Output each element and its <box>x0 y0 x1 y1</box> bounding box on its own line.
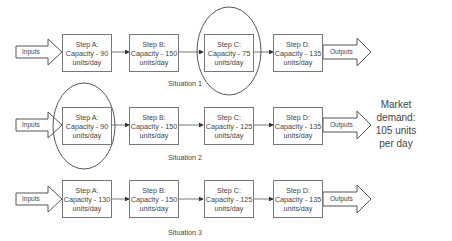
outputs-label: Outputs <box>330 121 353 128</box>
step-capacity: Capacity - 90 <box>63 49 111 58</box>
step-name: Step A: <box>63 186 111 195</box>
step-capacity: Capacity - 135 <box>274 122 322 131</box>
step-name: Step B: <box>130 113 178 122</box>
step-b-box: Step B: Capacity - 150 units/day <box>129 107 179 145</box>
step-b-box: Step B: Capacity - 150 units/day <box>129 180 179 218</box>
step-name: Step B: <box>130 40 178 49</box>
step-unit: units/day <box>63 131 111 140</box>
step-name: Step C: <box>205 113 253 122</box>
step-capacity: Capacity - 135 <box>274 49 322 58</box>
step-name: Step D: <box>274 186 322 195</box>
step-capacity: Capacity - 125 <box>205 195 253 204</box>
step-unit: units/day <box>205 131 253 140</box>
step-capacity: Capacity - 130 <box>63 195 111 204</box>
step-unit: units/day <box>205 204 253 213</box>
step-name: Step D: <box>274 113 322 122</box>
step-unit: units/day <box>130 204 178 213</box>
step-capacity: Capacity - 75 <box>205 49 253 58</box>
step-unit: units/day <box>274 204 322 213</box>
step-unit: units/day <box>205 58 253 67</box>
step-name: Step C: <box>205 40 253 49</box>
step-d-box: Step D: Capacity - 135 units/day <box>273 107 323 145</box>
step-capacity: Capacity - 150 <box>130 195 178 204</box>
step-name: Step A: <box>63 113 111 122</box>
inputs-label: Inputs <box>22 195 40 202</box>
step-unit: units/day <box>274 131 322 140</box>
step-d-box: Step D: Capacity - 135 units/day <box>273 180 323 218</box>
step-c-box: Step C: Capacity - 125 units/day <box>204 107 254 145</box>
step-unit: units/day <box>63 204 111 213</box>
step-name: Step C: <box>205 186 253 195</box>
step-capacity: Capacity - 150 <box>130 49 178 58</box>
step-capacity: Capacity - 125 <box>205 122 253 131</box>
outputs-label: Outputs <box>330 195 353 202</box>
step-name: Step D: <box>274 40 322 49</box>
step-capacity: Capacity - 90 <box>63 122 111 131</box>
step-a-box: Step A: Capacity - 90 units/day <box>62 34 112 72</box>
step-c-box: Step C: Capacity - 75 units/day <box>204 34 254 72</box>
step-unit: units/day <box>63 58 111 67</box>
inputs-label: Inputs <box>22 121 40 128</box>
step-d-box: Step D: Capacity - 135 units/day <box>273 34 323 72</box>
step-unit: units/day <box>274 58 322 67</box>
step-unit: units/day <box>130 131 178 140</box>
step-name: Step B: <box>130 186 178 195</box>
step-b-box: Step B: Capacity - 150 units/day <box>129 34 179 72</box>
step-a-box: Step A: Capacity - 90 units/day <box>62 107 112 145</box>
outputs-label: Outputs <box>330 48 353 55</box>
step-unit: units/day <box>130 58 178 67</box>
step-capacity: Capacity - 135 <box>274 195 322 204</box>
step-c-box: Step C: Capacity - 125 units/day <box>204 180 254 218</box>
step-name: Step A: <box>63 40 111 49</box>
step-capacity: Capacity - 150 <box>130 122 178 131</box>
step-a-box: Step A: Capacity - 130 units/day <box>62 180 112 218</box>
inputs-label: Inputs <box>22 48 40 55</box>
